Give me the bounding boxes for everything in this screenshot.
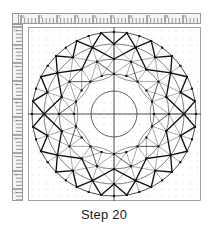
vertical-ruler-ticks: 0123456789 (13, 25, 22, 200)
svg-text:0: 0 (22, 15, 24, 19)
mandala-svg (28, 27, 201, 201)
drawing-canvas[interactable] (28, 27, 201, 201)
svg-text:4: 4 (94, 15, 96, 19)
horizontal-ruler[interactable]: 0123456789 (18, 13, 201, 24)
svg-text:3: 3 (76, 15, 78, 19)
svg-text:2: 2 (58, 15, 60, 19)
svg-text:9: 9 (184, 15, 186, 19)
step-caption: Step 20 (0, 207, 208, 222)
svg-text:6: 6 (130, 15, 132, 19)
horizontal-ruler-ticks: 0123456789 (19, 14, 200, 23)
vertical-ruler[interactable]: 0123456789 (12, 24, 23, 201)
figure-panel: 0123456789 0123456789 Step 20 (0, 0, 208, 236)
svg-text:1: 1 (40, 15, 42, 19)
svg-text:8: 8 (166, 15, 168, 19)
svg-text:7: 7 (148, 15, 150, 19)
svg-text:5: 5 (112, 15, 114, 19)
